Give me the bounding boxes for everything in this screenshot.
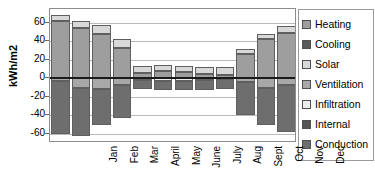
- bar-segment: [51, 81, 70, 134]
- x-tick-label: Dec: [335, 146, 347, 182]
- legend-label: Ventilation: [315, 78, 363, 90]
- bar-segment: [257, 34, 276, 40]
- bar-segment: [133, 80, 152, 89]
- x-tick-label: June: [211, 146, 223, 182]
- chart-figure: kWh/m2 6040200-20-40-60 HeatingCoolingSo…: [0, 0, 375, 182]
- bar-group[interactable]: [132, 9, 153, 141]
- x-tick-label: Nov: [314, 146, 326, 182]
- bar-segment: [72, 78, 91, 87]
- bar-group[interactable]: [194, 9, 215, 141]
- y-tick-label: 0: [15, 72, 45, 82]
- bar-segment: [154, 81, 173, 90]
- bar-segment: [257, 78, 276, 87]
- bar-segment: [216, 67, 235, 74]
- y-tick-mark: [45, 133, 49, 134]
- bar-segment: [92, 25, 111, 34]
- bar-segment: [72, 21, 91, 28]
- bar-segment: [113, 48, 132, 78]
- x-tick-label: Feb: [129, 146, 141, 182]
- y-tick-mark: [45, 40, 49, 41]
- legend-swatch-icon: [302, 120, 311, 129]
- bar-segment: [92, 89, 111, 124]
- legend-label: Heating: [315, 18, 351, 30]
- y-tick-mark: [45, 96, 49, 97]
- y-tick-label: -40: [15, 109, 45, 119]
- bar-segment: [175, 66, 194, 72]
- bar-segment: [236, 82, 255, 115]
- legend-swatch-icon: [302, 100, 311, 109]
- bar-segment: [92, 34, 111, 78]
- bar-segment: [51, 21, 70, 78]
- y-tick-mark: [45, 114, 49, 115]
- bar-segment: [113, 85, 132, 118]
- bar-segment: [236, 49, 255, 55]
- legend-swatch-icon: [302, 60, 311, 69]
- y-tick-label: -60: [15, 128, 45, 138]
- bar-segment: [113, 39, 132, 48]
- legend-item[interactable]: Internal: [302, 114, 371, 134]
- legend-label: Cooling: [315, 38, 351, 50]
- bar-segment: [195, 80, 214, 90]
- x-tick-label: Mar: [149, 146, 161, 182]
- y-tick-label: 60: [15, 17, 45, 27]
- bar-group[interactable]: [153, 9, 174, 141]
- bar-segment: [257, 39, 276, 78]
- bar-group[interactable]: [174, 9, 195, 141]
- y-axis: 6040200-20-40-60: [13, 0, 45, 182]
- bar-segment: [236, 54, 255, 78]
- bar-group[interactable]: [91, 9, 112, 141]
- y-tick-mark: [45, 77, 49, 78]
- bar-segment: [154, 65, 173, 71]
- bar-group[interactable]: [256, 9, 277, 141]
- chart-legend: HeatingCoolingSolarVentilationInfiltrati…: [298, 9, 374, 161]
- y-tick-label: 40: [15, 35, 45, 45]
- bar-group[interactable]: [112, 9, 133, 141]
- x-tick-label: May: [191, 146, 203, 182]
- y-tick-mark: [45, 22, 49, 23]
- legend-item[interactable]: Heating: [302, 14, 371, 34]
- zero-axis-line: [50, 77, 295, 79]
- legend-item[interactable]: Infiltration: [302, 94, 371, 114]
- legend-label: Infiltration: [315, 98, 361, 110]
- bar-segment: [195, 67, 214, 73]
- x-tick-label: Oct: [294, 146, 306, 182]
- legend-swatch-icon: [302, 40, 311, 49]
- legend-item[interactable]: Ventilation: [302, 74, 371, 94]
- bar-segment: [216, 79, 235, 89]
- x-tick-label: Sept: [273, 146, 285, 182]
- x-tick-label: July: [232, 146, 244, 182]
- bar-segment: [51, 15, 70, 21]
- x-tick-label: April: [170, 146, 182, 182]
- legend-swatch-icon: [302, 20, 311, 29]
- legend-item[interactable]: Cooling: [302, 34, 371, 54]
- bar-segment: [277, 85, 296, 132]
- bar-segment: [277, 33, 296, 78]
- bar-segment: [133, 66, 152, 72]
- bar-group[interactable]: [276, 9, 296, 141]
- legend-item[interactable]: Solar: [302, 54, 371, 74]
- legend-label: Solar: [315, 58, 340, 70]
- x-tick-label: Aug: [252, 146, 264, 182]
- bar-segment: [72, 28, 91, 78]
- bar-segment: [277, 26, 296, 33]
- legend-swatch-icon: [302, 80, 311, 89]
- bar-segment: [72, 88, 91, 136]
- bar-group[interactable]: [235, 9, 256, 141]
- bar-segment: [257, 88, 276, 125]
- y-tick-label: -20: [15, 91, 45, 101]
- legend-label: Internal: [315, 118, 350, 130]
- bar-group[interactable]: [50, 9, 71, 141]
- bar-segment: [92, 78, 111, 89]
- x-tick-label: Jan: [108, 146, 120, 182]
- y-tick-mark: [45, 59, 49, 60]
- y-tick-label: 20: [15, 54, 45, 64]
- bar-group[interactable]: [215, 9, 236, 141]
- bar-segment: [175, 81, 194, 90]
- bar-group[interactable]: [71, 9, 92, 141]
- plot-area: [49, 8, 296, 142]
